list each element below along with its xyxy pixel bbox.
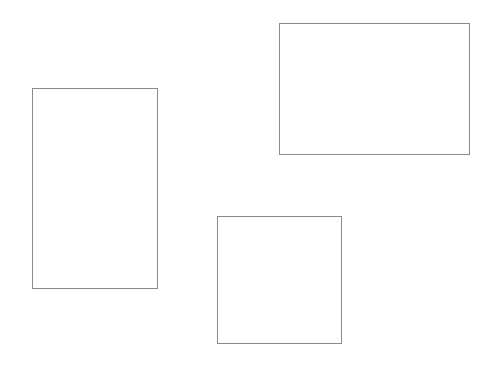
drawing-canvas [0, 0, 494, 370]
rectangle-left-portrait[interactable] [32, 88, 158, 289]
rectangle-bottom-center-square[interactable] [217, 216, 342, 344]
rectangle-top-right-landscape[interactable] [279, 23, 470, 155]
